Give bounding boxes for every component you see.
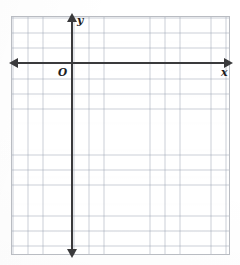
coordinate-plane-figure: y x O [0,0,240,265]
grid-plot-area [11,16,230,255]
x-axis-label: x [221,67,228,78]
grid-lines [12,17,229,254]
y-axis-arrow-up-icon [67,13,77,22]
origin-label: O [58,67,67,78]
y-axis-line [71,19,73,252]
x-axis-line [14,62,227,64]
y-axis-label: y [77,15,83,26]
x-axis-arrow-left-icon [9,58,18,68]
y-axis-arrow-down-icon [67,249,77,258]
